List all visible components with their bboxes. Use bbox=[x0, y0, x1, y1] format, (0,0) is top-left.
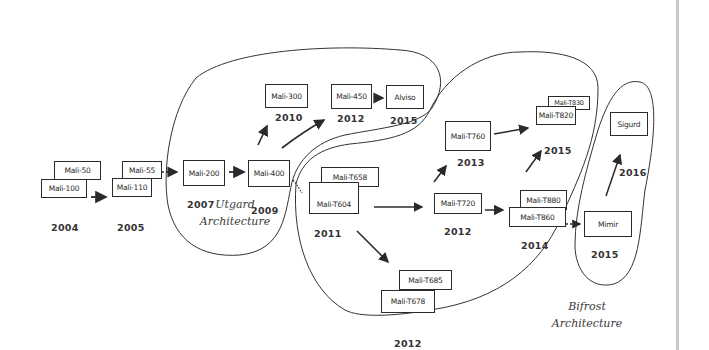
node-mali-450: Mali-450 bbox=[331, 84, 372, 109]
utgard-suffix: Architecture bbox=[180, 213, 290, 230]
bifrost-name: Bifrost bbox=[532, 298, 642, 315]
node-mali-t820: Mali-T820 bbox=[536, 106, 576, 125]
node-mali-t604: Mali-T604 bbox=[309, 182, 359, 214]
year-2014: 2014 bbox=[521, 240, 549, 251]
edge-mali400-t604 bbox=[293, 180, 302, 193]
year-2005: 2005 bbox=[117, 222, 145, 233]
node-mali-55: Mali-55 bbox=[122, 161, 162, 179]
utgard-name: Utgard bbox=[180, 196, 290, 213]
node-mali-t760: Mali-T760 bbox=[445, 121, 491, 151]
node-mali-110: Mali-110 bbox=[112, 178, 152, 197]
node-alviso: Alviso bbox=[386, 85, 424, 109]
page-edge bbox=[676, 0, 679, 350]
edge-t760-t820 bbox=[494, 128, 528, 134]
node-mali-t678: Mali-T678 bbox=[381, 290, 435, 313]
bifrost-suffix: Architecture bbox=[532, 315, 642, 332]
node-mali-100: Mali-100 bbox=[41, 179, 87, 198]
diagram-canvas: Mali-50 Mali-100 2004 Mali-55 Mali-110 2… bbox=[0, 0, 709, 350]
year-2012-mali450: 2012 bbox=[337, 113, 365, 124]
edge-mali400-mali450 bbox=[282, 120, 324, 148]
node-mali-t720: Mali-T720 bbox=[434, 193, 482, 214]
edge-mimir-sigurd bbox=[606, 155, 620, 196]
node-mali-200: Mali-200 bbox=[183, 160, 225, 186]
year-2016: 2016 bbox=[619, 167, 647, 178]
edge-t860-t820 bbox=[526, 151, 541, 172]
year-2010: 2010 bbox=[275, 112, 303, 123]
bifrost-architecture-label: Bifrost Architecture bbox=[532, 298, 642, 332]
year-2015-alviso: 2015 bbox=[390, 115, 418, 126]
year-2004: 2004 bbox=[51, 222, 79, 233]
year-2012-t720: 2012 bbox=[444, 226, 472, 237]
edge-t720-t760 bbox=[434, 166, 446, 182]
node-mali-300: Mali-300 bbox=[265, 84, 308, 108]
year-2013: 2013 bbox=[457, 157, 485, 168]
node-mali-400: Mali-400 bbox=[248, 160, 290, 187]
year-2015-t820: 2015 bbox=[544, 145, 572, 156]
utgard-architecture-label: Utgard Architecture bbox=[180, 196, 290, 230]
year-2012-t678: 2012 bbox=[394, 338, 422, 349]
node-sigurd: Sigurd bbox=[610, 112, 648, 136]
node-mali-t685: Mali-T685 bbox=[399, 270, 452, 290]
node-mali-t860: Mali-T860 bbox=[509, 207, 566, 227]
node-mimir: Mimir bbox=[584, 211, 632, 237]
year-2011: 2011 bbox=[314, 228, 342, 239]
edge-mali400-mali300 bbox=[258, 126, 267, 145]
edge-t604-t678 bbox=[357, 231, 388, 262]
node-mali-50: Mali-50 bbox=[54, 161, 101, 180]
year-2015-mimir: 2015 bbox=[591, 249, 619, 260]
